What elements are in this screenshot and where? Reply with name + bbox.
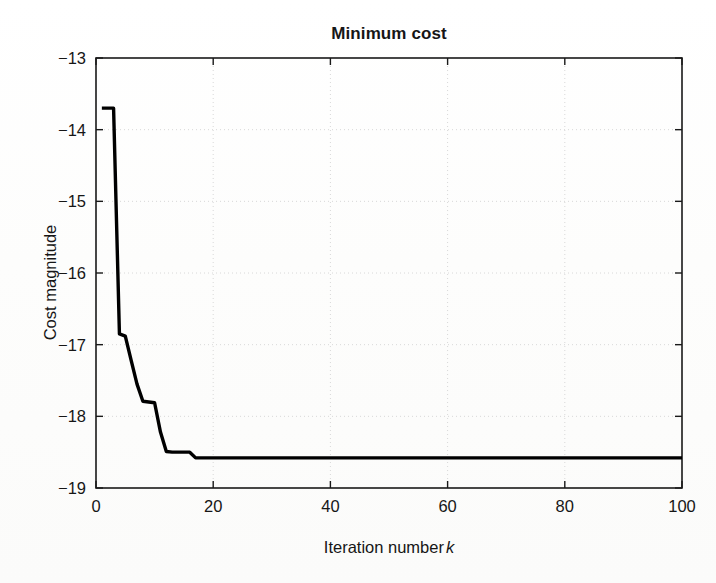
gridlines xyxy=(96,58,682,488)
plot-canvas xyxy=(0,0,716,583)
figure-container: Minimum cost Cost magnitude Iteration nu… xyxy=(0,0,716,583)
plot-frame xyxy=(96,58,682,488)
chart-page: Minimum cost Cost magnitude Iteration nu… xyxy=(0,0,716,583)
axis-ticks xyxy=(96,58,682,488)
cost-curve xyxy=(102,108,682,458)
